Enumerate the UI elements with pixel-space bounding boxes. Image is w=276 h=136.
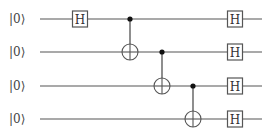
- gate-label: H: [230, 13, 240, 27]
- gate-label: H: [230, 46, 240, 60]
- gate-label: H: [230, 113, 240, 127]
- qubit-3-label: |0⟩: [9, 112, 25, 126]
- hadamard-gate-q0-final: H: [228, 11, 243, 27]
- control-dot-icon: [190, 83, 195, 88]
- cnot-gate-q1-q2: [154, 49, 170, 94]
- control-dot-icon: [159, 49, 164, 54]
- qubit-labels: |0⟩ |0⟩ |0⟩ |0⟩: [9, 12, 25, 126]
- qubit-0-label: |0⟩: [9, 12, 25, 26]
- quantum-circuit: |0⟩ |0⟩ |0⟩ |0⟩ H: [0, 0, 276, 136]
- hadamard-gate-q1-final: H: [228, 44, 243, 60]
- cnot-gate-q2-q3: [185, 83, 201, 127]
- gate-label: H: [230, 80, 240, 94]
- hadamard-gate-q0-first: H: [73, 11, 88, 27]
- control-dot-icon: [127, 16, 132, 21]
- hadamard-gate-q3-final: H: [228, 111, 243, 127]
- qubit-1-label: |0⟩: [9, 45, 25, 59]
- qubit-wires: [40, 19, 262, 119]
- gate-label: H: [75, 13, 85, 27]
- cnot-gate-q0-q1: [122, 16, 138, 60]
- qubit-2-label: |0⟩: [9, 79, 25, 93]
- hadamard-gate-q2-final: H: [228, 78, 243, 94]
